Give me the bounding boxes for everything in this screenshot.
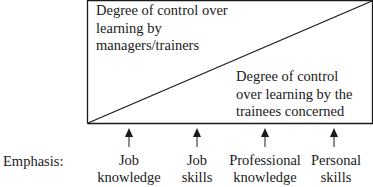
manager-control-label: Degree of control over learning by manag…	[96, 2, 228, 55]
item-line: Job	[94, 152, 164, 169]
emphasis-arrows	[125, 128, 338, 147]
label-line: learning by	[96, 20, 228, 38]
emphasis-item-personal-skills: Personal skills	[306, 152, 366, 186]
trainee-control-label: Degree of control over learning by the t…	[236, 68, 352, 121]
label-line: Degree of control	[236, 68, 352, 86]
emphasis-label: Emphasis:	[3, 153, 63, 171]
item-line: knowledge	[94, 169, 164, 186]
emphasis-item-job-skills: Job skills	[172, 152, 222, 186]
label-line: over learning by the	[236, 86, 352, 104]
arrow-up-icon	[193, 128, 201, 147]
item-line: skills	[172, 169, 222, 186]
label-line: trainees concerned	[236, 103, 352, 121]
emphasis-item-professional-knowledge: Professional knowledge	[225, 152, 305, 186]
item-line: skills	[306, 169, 366, 186]
emphasis-item-job-knowledge: Job knowledge	[94, 152, 164, 186]
item-line: knowledge	[225, 169, 305, 186]
arrow-up-icon	[330, 128, 338, 147]
label-line: Degree of control over	[96, 2, 228, 20]
arrow-up-icon	[261, 128, 269, 147]
arrow-up-icon	[125, 128, 133, 147]
item-line: Job	[172, 152, 222, 169]
item-line: Personal	[306, 152, 366, 169]
item-line: Professional	[225, 152, 305, 169]
label-line: managers/trainers	[96, 37, 228, 55]
